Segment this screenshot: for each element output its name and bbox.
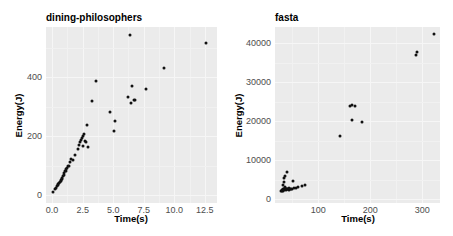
gridline [370,27,371,203]
data-point [292,179,295,182]
gridline [275,121,440,122]
data-point [303,184,306,187]
gridline [275,199,440,200]
gridline [344,27,345,203]
gridline [275,43,440,44]
data-point [432,32,435,35]
x-tick-label: 300 [402,205,442,215]
plot-panel [275,27,440,203]
y-tick-label: 0 [231,194,271,204]
data-point [283,180,286,183]
y-tick-label: 10000 [231,155,271,165]
gridline [275,141,440,142]
x-axis-label: Time(s) [341,213,375,224]
gridline [318,27,319,203]
x-tick-label: 100 [298,205,338,215]
chart-fasta: fasta 010000200003000040000 100200300 Ti… [0,0,453,236]
data-point [414,54,417,57]
gridline [396,27,397,203]
y-tick-label: 40000 [231,38,271,48]
data-point [284,174,287,177]
chart-title: fasta [275,12,298,23]
data-point [282,183,285,186]
data-point [416,50,419,53]
gridline [275,160,440,161]
gridline [422,27,423,203]
gridline [275,82,440,83]
y-tick-label: 30000 [231,77,271,87]
data-point [351,118,354,121]
gridline [292,27,293,203]
gridline [275,102,440,103]
gridline [275,180,440,181]
data-point [339,135,342,138]
data-point [360,120,363,123]
data-point [353,104,356,107]
gridline [275,63,440,64]
data-point [285,170,288,173]
y-axis-label: Energy(J) [233,91,244,141]
